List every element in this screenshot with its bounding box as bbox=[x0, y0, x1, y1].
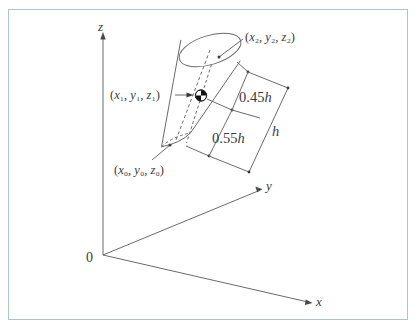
cylinder-body bbox=[162, 27, 245, 147]
label-centroid-point: (x₁, y₁, z₁) bbox=[110, 88, 160, 102]
dimension-label-lower: 0.55h bbox=[212, 130, 245, 146]
axis-label-y: y bbox=[264, 178, 272, 193]
cylinder-hidden-seam bbox=[187, 65, 212, 144]
axis-y bbox=[103, 187, 263, 256]
origin-label: 0 bbox=[86, 250, 93, 265]
dimension-label-upper: 0.45h bbox=[239, 89, 272, 105]
centroid-marker bbox=[195, 90, 206, 101]
label-top-point: (x₂, y₂, z₂) bbox=[245, 30, 295, 44]
cylinder-bottom-front-arc bbox=[162, 133, 191, 147]
axis-x bbox=[103, 255, 313, 305]
axis-label-z: z bbox=[97, 19, 103, 34]
cylinder-bottom-hidden-arc bbox=[162, 133, 191, 147]
axis-z bbox=[100, 32, 105, 255]
axis-label-x: x bbox=[315, 294, 322, 309]
cylinder-centroid-diagram: z y x 0 (x₂, y₂, z₂) (x₁, y₁, z₁) (x₀, y… bbox=[0, 0, 419, 331]
dimension-label-total: h bbox=[272, 123, 279, 139]
label-bottom-point: (x₀, y₀, z₀) bbox=[114, 163, 164, 177]
figure-root: z y x 0 (x₂, y₂, z₂) (x₁, y₁, z₁) (x₀, y… bbox=[0, 0, 419, 331]
cylinder-left-edge bbox=[162, 40, 181, 147]
